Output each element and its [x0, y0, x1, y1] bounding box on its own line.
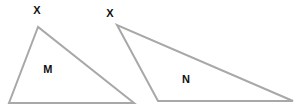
diagram-svg	[0, 0, 297, 109]
triangle-n-interior-label: N	[182, 74, 190, 85]
triangle-n-vertex-label-x: X	[106, 8, 114, 19]
triangle-m-interior-label: M	[43, 64, 52, 75]
triangle-n-outline	[117, 25, 293, 101]
triangle-m-outline	[9, 27, 134, 103]
triangle-m-vertex-label-x: X	[33, 5, 41, 16]
diagram-canvas: X M X N	[0, 0, 297, 109]
